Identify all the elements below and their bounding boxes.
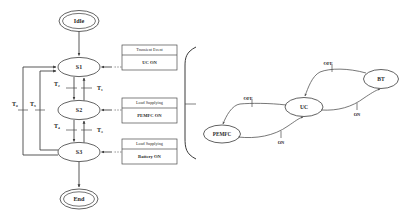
edge-pemfc-to-uc xyxy=(238,117,303,138)
transition-label-t6: T₆ xyxy=(12,101,18,107)
node-bt: BT xyxy=(364,70,399,89)
annotation-box-2-title: Load Supplying xyxy=(136,100,164,105)
node-s1-label: S1 xyxy=(76,64,82,70)
transition-label-t4: T₄ xyxy=(54,123,60,129)
transition-label-t5: T₅ xyxy=(30,101,36,107)
node-s2: S2 xyxy=(58,100,100,119)
annotation-box-3-title: Load Supplying xyxy=(136,141,164,146)
annotation-box-1-title: Transient Event xyxy=(136,47,163,52)
annotation-box-load-battery: Load Supplying Battery ON xyxy=(122,139,177,164)
node-idle: Idle xyxy=(59,11,99,32)
node-bt-label: BT xyxy=(377,76,385,82)
transition-label-t1: T₁ xyxy=(97,85,103,91)
annotation-box-2-body: PEMFC ON xyxy=(137,113,162,118)
transition-label-t2: T₂ xyxy=(54,81,60,87)
grouping-brace xyxy=(185,47,196,159)
node-end: End xyxy=(60,189,98,209)
node-uc: UC xyxy=(285,98,323,117)
diagram-svg: Idle S1 S2 S3 End T₂ T₁ T₄ T₃ T₆ T₅ xyxy=(0,0,416,224)
node-pemfc-label: PEMFC xyxy=(213,131,232,137)
node-s3-label: S3 xyxy=(76,149,82,155)
node-idle-label: Idle xyxy=(74,17,85,24)
annotation-box-load-pemfc: Load Supplying PEMFC ON xyxy=(122,98,177,123)
node-s1: S1 xyxy=(58,57,100,76)
node-uc-label: UC xyxy=(300,104,308,110)
edge-label-uc-to-bt: ON xyxy=(354,112,361,117)
edge-label-pemfc-to-uc: ON xyxy=(278,140,285,145)
annotation-box-3-body: Battery ON xyxy=(138,154,162,159)
node-s2-label: S2 xyxy=(76,107,82,113)
node-pemfc: PEMFC xyxy=(204,125,241,143)
node-s3: S3 xyxy=(58,142,100,161)
annotation-box-transient-event: Transient Event UC ON xyxy=(122,45,177,70)
edge-label-bt-to-uc: OFF xyxy=(323,61,332,66)
edge-s3-to-s1-feedback xyxy=(23,67,58,155)
edge-uc-to-pemfc xyxy=(223,103,286,124)
figure-canvas: Idle S1 S2 S3 End T₂ T₁ T₄ T₃ T₆ T₅ xyxy=(0,0,416,224)
annotation-box-1-body: UC ON xyxy=(142,60,157,65)
edge-label-uc-to-pemfc: OFF xyxy=(243,96,252,101)
transition-label-t3-lower: T₃ xyxy=(97,127,103,133)
edge-uc-to-bt xyxy=(321,89,380,110)
edge-bt-to-uc xyxy=(305,69,366,96)
node-end-label: End xyxy=(73,195,85,202)
